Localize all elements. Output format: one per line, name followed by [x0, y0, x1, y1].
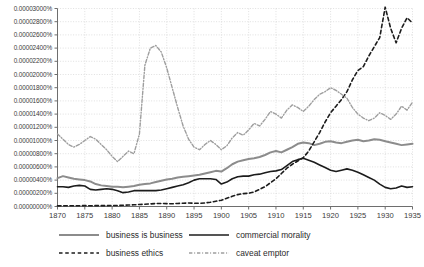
y-tick-label: 0.00001000%: [0, 137, 52, 144]
y-tick-label: 0.00000200%: [0, 189, 52, 196]
legend-key-swatch: [188, 248, 230, 258]
y-tick-label: 0.00001600%: [0, 97, 52, 104]
legend-key-swatch: [58, 230, 100, 240]
line-chart-figure: 0.00000000%0.00000200%0.00000400%0.00000…: [0, 0, 424, 267]
y-tick-label: 0.00001800%: [0, 84, 52, 91]
y-tick-label: 0.00003000%: [0, 5, 52, 12]
legend-key-swatch: [188, 230, 230, 240]
y-tick-label: 0.00001200%: [0, 123, 52, 130]
chart-legend: business is businesscommercial moralityb…: [0, 228, 424, 267]
legend-label: business ethics: [106, 248, 163, 258]
y-tick-label: 0.00002600%: [0, 31, 52, 38]
legend-label: business is business: [106, 230, 183, 240]
legend-item[interactable]: commercial morality: [188, 228, 310, 242]
plot-canvas: [0, 0, 424, 267]
series-line-caveat-emptor: [58, 45, 413, 161]
y-tick-label: 0.00002400%: [0, 44, 52, 51]
y-tick-label: 0.00001400%: [0, 110, 52, 117]
legend-label: commercial morality: [236, 230, 310, 240]
y-tick-label: 0.00000600%: [0, 163, 52, 170]
legend-item[interactable]: caveat emptor: [188, 246, 289, 260]
legend-item[interactable]: business is business: [58, 228, 183, 242]
y-tick-label: 0.00002800%: [0, 18, 52, 25]
y-tick-label: 0.00000000%: [0, 203, 52, 210]
series-line-business-ethics: [58, 7, 413, 206]
legend-key-swatch: [58, 248, 100, 258]
x-tick-label: 1935: [396, 211, 424, 220]
legend-label: caveat emptor: [236, 248, 289, 258]
y-tick-label: 0.00000800%: [0, 150, 52, 157]
y-tick-label: 0.00002200%: [0, 57, 52, 64]
legend-item[interactable]: business ethics: [58, 246, 163, 260]
y-tick-label: 0.00002000%: [0, 71, 52, 78]
y-tick-label: 0.00000400%: [0, 176, 52, 183]
